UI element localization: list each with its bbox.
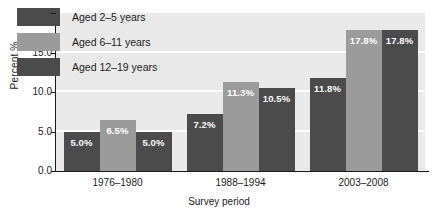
legend-item-label: Aged 2–5 years xyxy=(72,11,146,23)
bar-value-label: 11.8% xyxy=(310,83,346,94)
bar-group: 11.8%17.8%17.8% xyxy=(310,13,418,171)
y-axis-tick-mark xyxy=(51,171,56,172)
bar[interactable]: 6.5% xyxy=(100,120,136,171)
legend: Aged 2–5 yearsAged 6–11 yearsAged 12–19 … xyxy=(17,8,157,76)
y-axis-tick-mark xyxy=(51,53,56,54)
x-axis-category-label: 1988–1994 xyxy=(179,177,302,188)
legend-color-swatch xyxy=(17,8,60,26)
y-axis-tick-label: 0.0 xyxy=(18,166,52,176)
x-axis-category-label: 2003–2008 xyxy=(302,177,425,188)
bar-group: 7.2%11.3%10.5% xyxy=(187,13,295,171)
bar-value-label: 17.8% xyxy=(382,35,418,46)
bar-value-label: 5.0% xyxy=(136,137,172,148)
bar-value-label: 7.2% xyxy=(187,119,223,130)
bar[interactable]: 7.2% xyxy=(187,114,223,171)
legend-item[interactable]: Aged 2–5 years xyxy=(17,8,157,26)
bar[interactable]: 17.8% xyxy=(382,30,418,171)
bar-value-label: 6.5% xyxy=(100,125,136,136)
bar-value-label: 17.8% xyxy=(346,35,382,46)
legend-item-label: Aged 6–11 years xyxy=(72,36,151,48)
bar-value-label: 11.3% xyxy=(223,87,259,98)
y-axis-tick-label: 10.0 xyxy=(18,87,52,97)
legend-item[interactable]: Aged 6–11 years xyxy=(17,33,157,51)
bar[interactable]: 10.5% xyxy=(259,88,295,171)
y-axis-tick-label: 5.0 xyxy=(18,127,52,137)
bar[interactable]: 11.8% xyxy=(310,78,346,171)
bar[interactable]: 17.8% xyxy=(346,30,382,171)
legend-color-swatch xyxy=(17,58,60,76)
x-axis-category-label: 1976–1980 xyxy=(56,177,179,188)
y-axis-tick-mark xyxy=(51,13,56,14)
y-axis-tick-mark xyxy=(51,92,56,93)
legend-item[interactable]: Aged 12–19 years xyxy=(17,58,157,76)
x-axis-line xyxy=(52,171,429,172)
y-axis-tick-mark xyxy=(51,132,56,133)
bar[interactable]: 5.0% xyxy=(64,132,100,172)
bar-chart: Percent % 0.05.010.015.020.0 5.0%6.5%5.0… xyxy=(0,0,438,216)
bar[interactable]: 11.3% xyxy=(223,82,259,171)
legend-item-label: Aged 12–19 years xyxy=(72,61,157,73)
bar[interactable]: 5.0% xyxy=(136,132,172,172)
bar-value-label: 5.0% xyxy=(64,137,100,148)
bar-value-label: 10.5% xyxy=(259,93,295,104)
x-axis-title: Survey period xyxy=(0,196,438,207)
legend-color-swatch xyxy=(17,33,60,51)
